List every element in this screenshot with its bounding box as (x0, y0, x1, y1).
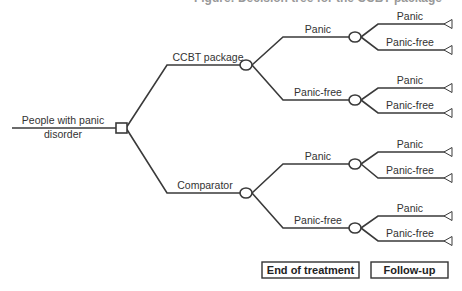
triangle-terminal-icon (444, 84, 452, 93)
branch-edge-ccbt-panic (252, 37, 349, 65)
branch-label-ccbt-panicfree: Panic-free (294, 86, 342, 98)
outcome-label: Panic-free (386, 99, 434, 111)
outcome-label: Panic (397, 10, 423, 22)
branch-label-comp-panicfree: Panic-free (294, 214, 342, 226)
arm-label-comparator: Comparator (177, 179, 233, 191)
chance-node-icon (349, 95, 361, 105)
triangle-terminal-icon (444, 237, 452, 246)
branch-label-comp-panic: Panic (305, 150, 331, 162)
stage-label-follow-up: Follow-up (384, 264, 436, 276)
outcome-label: Panic-free (386, 164, 434, 176)
triangle-terminal-icon (444, 174, 452, 183)
decision-tree-diagram: People with panic disorder CCBT package … (0, 0, 462, 291)
chance-node-icon (349, 159, 361, 169)
branch-label-ccbt-panic: Panic (305, 23, 331, 35)
triangle-terminal-icon (444, 148, 452, 157)
chance-node-comparator-icon (240, 188, 252, 198)
chance-node-icon (349, 32, 361, 42)
branch-edge-comp-panic (252, 164, 349, 193)
triangle-terminal-icon (444, 212, 452, 221)
root-label-line2: disorder (44, 128, 82, 140)
chance-node-ccbt-icon (240, 60, 252, 70)
stage-label-end-of-treatment: End of treatment (267, 264, 355, 276)
chance-node-icon (349, 223, 361, 233)
arm-label-ccbt: CCBT package (172, 51, 243, 63)
outcome-label: Panic-free (386, 227, 434, 239)
triangle-terminal-icon (444, 20, 452, 29)
outcome-label: Panic (397, 138, 423, 150)
arm-edge-ccbt (126, 65, 240, 128)
triangle-terminal-icon (444, 46, 452, 55)
outcome-label: Panic-free (386, 36, 434, 48)
triangle-terminal-icon (444, 109, 452, 118)
outcome-label: Panic (397, 74, 423, 86)
outcome-edge (361, 152, 445, 164)
decision-node-icon (116, 123, 127, 133)
root-label-line1: People with panic (22, 114, 104, 126)
outcome-label: Panic (397, 202, 423, 214)
